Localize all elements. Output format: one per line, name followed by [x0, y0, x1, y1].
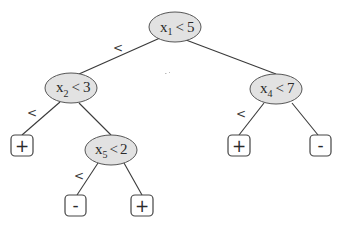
edge-n4-l5	[292, 103, 318, 135]
leaf-plus-left: +	[11, 135, 33, 156]
svg-text:x1<5: x1<5	[160, 19, 194, 37]
node-x1-lt-5: x1<5	[149, 12, 201, 42]
edge-label-n1-n2: <	[113, 41, 123, 55]
leaf-label: -	[317, 135, 323, 155]
node-sub: 5	[103, 149, 108, 160]
edge-label-n4-l4: <	[236, 107, 246, 121]
edge-labels: < < < <	[27, 41, 246, 183]
node-sub: 1	[168, 26, 173, 37]
node-sub: 2	[64, 88, 69, 99]
node-value: 7	[287, 80, 295, 96]
leaf-label: +	[135, 196, 149, 216]
node-op: <	[176, 19, 184, 35]
decision-tree-diagram: < < < < x1<5 x2<3 x4<7 x5<2 + - + + -	[0, 0, 341, 227]
node-value: 3	[83, 79, 91, 95]
node-op: <	[276, 80, 284, 96]
scan-speck	[165, 72, 170, 74]
node-x5-lt-2: x5<2	[85, 135, 137, 165]
leaf-label: +	[15, 136, 29, 156]
edges	[22, 38, 318, 195]
leaf-plus-x5-right: +	[131, 195, 153, 216]
node-x2-lt-3: x2<3	[45, 73, 97, 103]
leaf-label: +	[232, 136, 246, 156]
edge-n2-n5	[79, 103, 111, 135]
edge-n1-n4	[186, 40, 276, 74]
leaf-label: -	[72, 195, 78, 215]
node-value: 2	[120, 141, 128, 157]
leaf-plus-x4-left: +	[228, 135, 250, 156]
leaf-minus-x4-right: -	[310, 135, 331, 156]
node-sub: 4	[268, 88, 273, 99]
node-value: 5	[187, 19, 195, 35]
node-x4-lt-7: x4<7	[250, 74, 302, 104]
edge-n5-l3	[124, 163, 142, 195]
edge-label-n5-l2: <	[74, 169, 84, 183]
node-op: <	[72, 79, 80, 95]
node-op: <	[110, 141, 118, 157]
leaf-minus-x5-left: -	[65, 195, 86, 216]
edge-label-n2-l1: <	[27, 106, 37, 120]
